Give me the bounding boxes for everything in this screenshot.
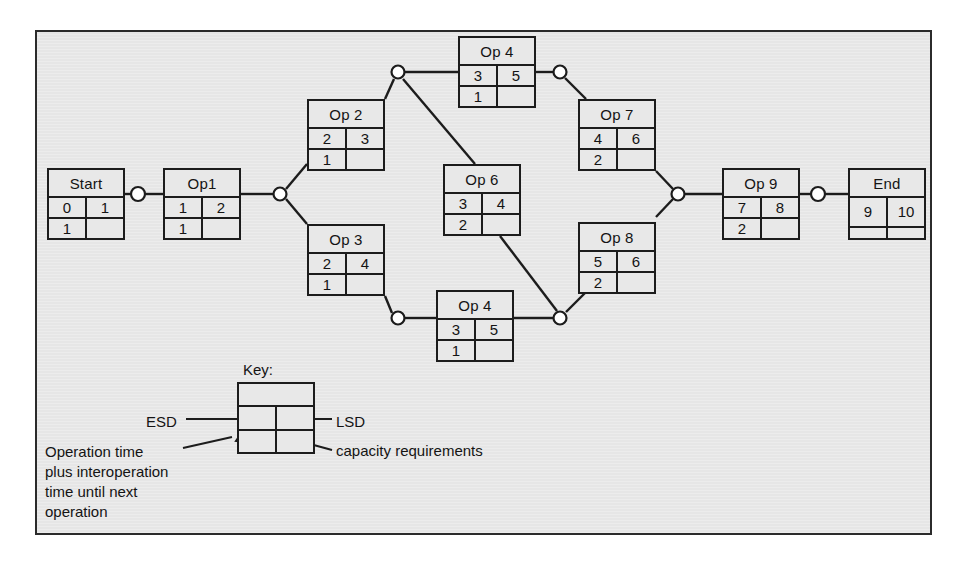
node-op8[interactable]: Op 8 5 6 2 (578, 222, 656, 294)
node-lsd: 4 (347, 254, 383, 273)
node-row-time-capacity (850, 228, 924, 239)
node-lsd: 3 (347, 129, 383, 148)
key-label-lsd: LSD (336, 412, 365, 432)
node-title: Start (49, 170, 123, 198)
node-row-esd-lsd: 0 1 (49, 198, 123, 219)
node-esd: 3 (438, 320, 476, 339)
node-row-esd-lsd: 2 4 (309, 254, 383, 275)
node-capacity (347, 275, 383, 294)
node-title: Op 7 (580, 101, 654, 129)
node-lsd: 5 (498, 66, 534, 85)
node-lsd: 6 (618, 129, 654, 148)
key-label-operation-time: Operation time plus interoperation time … (45, 442, 168, 522)
junction-op9-end (811, 187, 825, 201)
node-row-time-capacity: 1 (165, 219, 239, 238)
node-op4-upper[interactable]: Op 4 3 5 1 (458, 36, 536, 108)
node-esd: 1 (165, 198, 203, 217)
node-row-esd-lsd: 3 5 (460, 66, 534, 87)
node-op-time: 2 (580, 273, 618, 292)
node-capacity (618, 150, 654, 169)
key-label-capacity: capacity requirements (336, 441, 483, 461)
diagram-canvas: Start 0 1 1 Op1 1 2 1 Op 2 2 3 1 (0, 0, 964, 570)
node-esd: 9 (850, 198, 888, 226)
node-lsd: 2 (203, 198, 239, 217)
node-capacity (762, 219, 798, 238)
key-node-template (237, 382, 315, 454)
key-cell-op-time (239, 431, 277, 452)
link-op7-merge (656, 171, 673, 189)
node-row-time-capacity: 2 (724, 219, 798, 238)
node-esd: 5 (580, 252, 618, 271)
node-row-esd-lsd: 5 6 (580, 252, 654, 273)
node-row-esd-lsd: 3 4 (445, 194, 519, 215)
node-op-time: 1 (49, 219, 87, 238)
node-op-time (850, 228, 888, 239)
node-esd: 0 (49, 198, 87, 217)
node-lsd: 5 (476, 320, 512, 339)
node-title: Op 3 (309, 226, 383, 254)
node-row-esd-lsd: 3 5 (438, 320, 512, 341)
node-op-time: 2 (445, 215, 483, 234)
node-op-time: 1 (309, 275, 347, 294)
junction-lower-merge (554, 312, 567, 325)
node-row-time-capacity: 1 (49, 219, 123, 238)
node-lsd: 6 (618, 252, 654, 271)
link-j-op7 (565, 78, 586, 99)
key-cell-capacity (277, 431, 313, 452)
node-op3[interactable]: Op 3 2 4 1 (307, 224, 385, 296)
key-cell-esd (239, 407, 277, 428)
key-optime-leader (183, 437, 232, 448)
node-op2[interactable]: Op 2 2 3 1 (307, 99, 385, 171)
node-end[interactable]: End 9 10 (848, 168, 926, 240)
node-row-time-capacity: 1 (460, 87, 534, 106)
node-op-time: 1 (309, 150, 347, 169)
node-title: Op 4 (460, 38, 534, 66)
node-row-time-capacity: 2 (580, 150, 654, 169)
node-op1[interactable]: Op1 1 2 1 (163, 168, 241, 240)
node-title: End (850, 170, 924, 198)
key-cell-title (239, 384, 313, 405)
node-row-esd-lsd: 7 8 (724, 198, 798, 219)
node-capacity (87, 219, 123, 238)
node-esd: 3 (445, 194, 483, 213)
node-title: Op 2 (309, 101, 383, 129)
node-capacity (476, 341, 512, 360)
junction-op3-split (392, 312, 405, 325)
node-capacity (618, 273, 654, 292)
node-capacity (888, 228, 924, 239)
node-row-time-capacity: 1 (309, 275, 383, 294)
node-lsd: 10 (888, 198, 924, 226)
node-esd: 7 (724, 198, 762, 217)
node-lsd: 4 (483, 194, 519, 213)
node-esd: 3 (460, 66, 498, 85)
link-split-op3 (286, 199, 307, 224)
node-row-time-capacity: 1 (309, 150, 383, 169)
node-op9[interactable]: Op 9 7 8 2 (722, 168, 800, 240)
node-op7[interactable]: Op 7 4 6 2 (578, 99, 656, 171)
link-op3-j (385, 296, 392, 313)
node-lsd: 8 (762, 198, 798, 217)
node-op6[interactable]: Op 6 3 4 2 (443, 164, 521, 236)
key-label-esd: ESD (146, 412, 177, 432)
node-lsd: 1 (87, 198, 123, 217)
node-capacity (483, 215, 519, 234)
node-title: Op 6 (445, 166, 519, 194)
node-esd: 2 (309, 254, 347, 273)
node-start[interactable]: Start 0 1 1 (47, 168, 125, 240)
junction-op9-merge (672, 188, 685, 201)
link-op2-j (385, 79, 394, 99)
node-esd: 4 (580, 129, 618, 148)
node-op-time: 1 (438, 341, 476, 360)
link-split-op2 (286, 164, 307, 189)
node-row-time-capacity: 2 (580, 273, 654, 292)
link-op8-merge (656, 199, 673, 217)
node-title: Op 8 (580, 224, 654, 252)
node-op-time: 1 (460, 87, 498, 106)
node-op4-lower[interactable]: Op 4 3 5 1 (436, 290, 514, 362)
node-row-esd-lsd: 9 10 (850, 198, 924, 228)
key-row-esd-lsd (239, 407, 313, 430)
node-capacity (498, 87, 534, 106)
node-row-esd-lsd: 4 6 (580, 129, 654, 150)
node-op-time: 1 (165, 219, 203, 238)
node-capacity (203, 219, 239, 238)
